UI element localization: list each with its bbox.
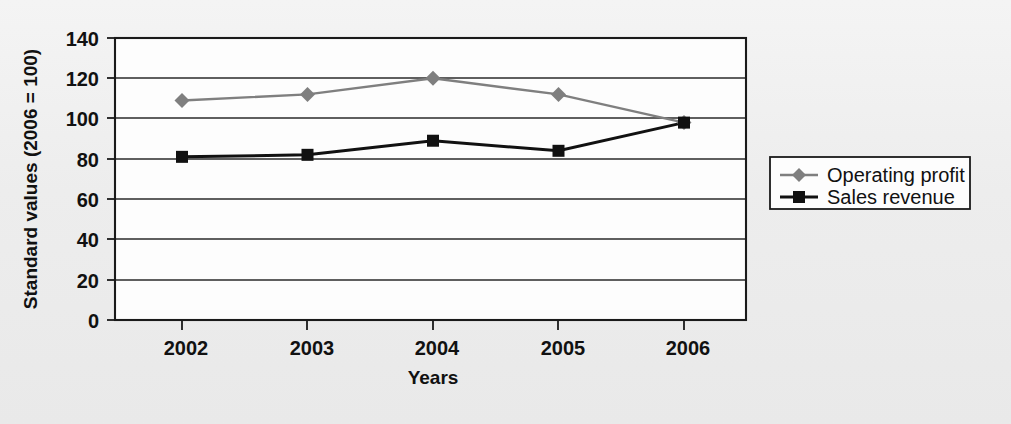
x-axis-title: Years: [408, 367, 459, 388]
data-point-sales-revenue-2006: [678, 117, 690, 129]
y-tick-label-140: 140: [66, 28, 99, 50]
line-chart-figure: 140 120 100 80 60 40 20 0 2002 2003 2004…: [0, 0, 1011, 424]
x-tick-label-2002: 2002: [164, 337, 209, 359]
x-tick-label-2005: 2005: [541, 337, 586, 359]
chart-svg: 140 120 100 80 60 40 20 0 2002 2003 2004…: [0, 0, 1011, 424]
legend-label-operating-profit: Operating profit: [827, 164, 965, 186]
legend-label-sales-revenue: Sales revenue: [827, 186, 955, 208]
x-tick-label-2004: 2004: [415, 337, 460, 359]
y-tick-label-20: 20: [77, 270, 99, 292]
chart-legend: Operating profit Sales revenue: [770, 157, 970, 209]
x-tick-label-2006: 2006: [666, 337, 711, 359]
x-axis-ticks: [182, 320, 684, 330]
y-tick-label-120: 120: [66, 68, 99, 90]
square-marker-icon: [793, 191, 805, 203]
y-axis-ticks: [107, 38, 115, 320]
x-tick-label-2003: 2003: [290, 337, 335, 359]
y-axis-tick-labels: 140 120 100 80 60 40 20 0: [66, 28, 99, 332]
y-tick-label-40: 40: [77, 229, 99, 251]
y-tick-label-100: 100: [66, 108, 99, 130]
data-point-sales-revenue-2002: [176, 151, 188, 163]
x-axis-tick-labels: 2002 2003 2004 2005 2006: [164, 337, 711, 359]
data-point-sales-revenue-2005: [553, 145, 565, 157]
data-point-sales-revenue-2003: [302, 149, 314, 161]
y-tick-label-0: 0: [88, 310, 99, 332]
y-tick-label-80: 80: [77, 149, 99, 171]
y-axis-title: Standard values (2006 = 100): [20, 49, 41, 309]
y-tick-label-60: 60: [77, 189, 99, 211]
data-point-sales-revenue-2004: [427, 135, 439, 147]
